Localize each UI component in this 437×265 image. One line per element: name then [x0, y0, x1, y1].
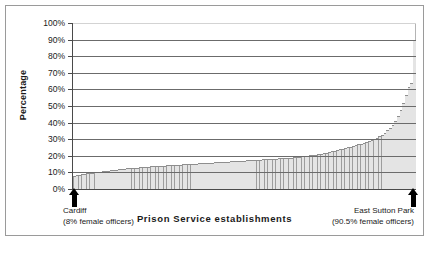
y-tick-label: 0%: [53, 184, 65, 194]
plot-area: 100%90%80%70%60%50%40%30%20%10%0%: [72, 23, 416, 190]
gridline: [72, 123, 416, 124]
gridline: [72, 23, 416, 24]
y-tick-label: 40%: [48, 118, 65, 128]
gridline: [72, 40, 416, 41]
y-axis-line: [72, 23, 73, 190]
gridline: [72, 139, 416, 140]
y-tick-label: 30%: [48, 134, 65, 144]
gridline: [72, 156, 416, 157]
y-tick-label: 100%: [43, 18, 65, 28]
gridline: [72, 73, 416, 74]
y-tick-label: 10%: [48, 167, 65, 177]
y-tick-label: 60%: [48, 84, 65, 94]
y-tick-label: 50%: [48, 101, 65, 111]
gridline: [72, 172, 416, 173]
chart-figure: Percentage 100%90%80%70%60%50%40%30%20%1…: [5, 5, 424, 236]
gridline: [72, 89, 416, 90]
x-axis-title: Prison Service establishments: [6, 213, 423, 224]
y-tick-label: 80%: [48, 51, 65, 61]
bar: [413, 40, 416, 189]
y-tick-label: 90%: [48, 35, 65, 45]
y-tick-label: 20%: [48, 151, 65, 161]
gridline: [72, 106, 416, 107]
y-axis-title: Percentage: [18, 40, 28, 150]
y-tick-label: 70%: [48, 68, 65, 78]
x-axis-line: [72, 189, 416, 190]
gridline: [72, 56, 416, 57]
